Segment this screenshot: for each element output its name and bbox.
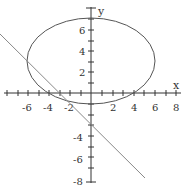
x-tick-label: -2: [64, 102, 74, 113]
x-tick-label: 8: [173, 102, 179, 113]
x-tick-label: 4: [131, 102, 137, 113]
y-tick-label: 4: [79, 46, 85, 57]
x-axis-label: x: [173, 79, 180, 92]
x-tick-label: 2: [110, 102, 116, 113]
y-tick-label: -6: [73, 154, 83, 165]
y-axis: 6 4 2 -4 -6 -8 y: [73, 5, 105, 187]
x-tick-label: -6: [22, 102, 32, 113]
y-tick-label: 2: [79, 67, 85, 78]
y-tick-label: -4: [73, 132, 83, 143]
y-axis-label: y: [97, 5, 105, 18]
x-tick-label: 6: [152, 102, 158, 113]
y-tick-label: -8: [73, 176, 83, 187]
x-axis: -6 -4 -2 2 4 6 8 x: [4, 79, 181, 113]
y-tick-label: 6: [79, 25, 85, 36]
graph-plot: -6 -4 -2 2 4 6 8 x 6 4 2 -4 -6 -8 y: [0, 0, 183, 195]
x-tick-label: -4: [43, 102, 53, 113]
